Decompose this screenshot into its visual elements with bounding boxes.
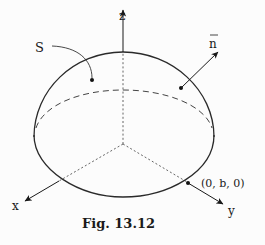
z-axis-label: z	[119, 9, 125, 23]
surface-leader-curve	[52, 46, 92, 78]
point-label: (0, b, 0)	[201, 177, 245, 190]
hemisphere-outline	[34, 52, 214, 137]
y-axis-hidden	[123, 144, 187, 182]
point-0-b-0	[186, 181, 190, 185]
x-axis-hidden	[59, 144, 123, 181]
surface-point	[90, 78, 94, 82]
figure: z x y S n (0, b, 0) Fig. 13.12	[0, 0, 265, 245]
surface-label: S	[35, 40, 44, 55]
x-axis	[25, 181, 59, 201]
figure-caption: Fig. 13.12	[82, 216, 155, 231]
normal-vector	[181, 52, 218, 88]
latitude-dashed-ellipse	[36, 90, 212, 128]
x-axis-label: x	[12, 199, 19, 213]
y-axis-label: y	[227, 204, 235, 218]
hidden-axes	[59, 52, 187, 182]
normal-label: n	[209, 37, 217, 51]
hemisphere-diagram: z x y S n (0, b, 0) Fig. 13.12	[0, 0, 265, 245]
